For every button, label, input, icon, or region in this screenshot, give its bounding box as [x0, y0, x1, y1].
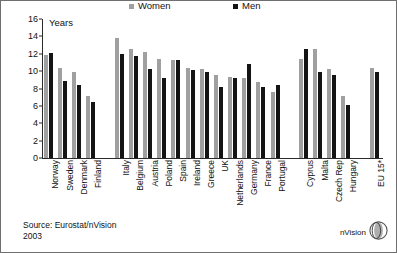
bar-women: [129, 49, 133, 158]
bar-women: [242, 78, 246, 158]
x-tick-label: Czech Rep: [335, 160, 344, 202]
bar-women: [157, 59, 161, 158]
bar-group: [44, 19, 56, 158]
plot-area: 0246810121416: [42, 19, 382, 158]
x-tick-label: Ireland: [193, 160, 202, 186]
x-tick-label: Cyprus: [306, 160, 315, 187]
x-tick-label: Norway: [51, 160, 60, 189]
legend-swatch: [129, 4, 134, 9]
bar-group: [200, 19, 212, 158]
bar-women: [299, 59, 303, 158]
x-tick-label: Spain: [179, 160, 188, 182]
bar-men: [375, 72, 379, 158]
bar-series-layer: [42, 19, 382, 158]
bar-men: [120, 54, 124, 158]
bar-group: [115, 19, 127, 158]
bar-women: [72, 72, 76, 158]
bar-women: [341, 96, 345, 158]
bar-women: [313, 49, 317, 158]
x-tick-label: France: [264, 160, 273, 186]
legend-label: Women: [138, 1, 171, 11]
bar-group: [58, 19, 70, 158]
bar-women: [115, 38, 119, 158]
bar-group: [256, 19, 268, 158]
x-axis-line: [42, 158, 383, 159]
bar-women: [143, 52, 147, 158]
source-year: 2003: [23, 231, 116, 242]
x-tick-label: Netherlands: [236, 160, 245, 206]
bar-men: [247, 64, 251, 158]
bar-group: [341, 19, 353, 158]
legend-swatch: [233, 4, 238, 9]
bar-men: [318, 72, 322, 158]
bar-women: [58, 68, 62, 158]
x-tick-label: Finland: [94, 160, 103, 188]
bar-group: [299, 19, 311, 158]
bar-group: [72, 19, 84, 158]
bar-women: [271, 92, 275, 158]
bar-men: [148, 69, 152, 158]
x-tick-label: Hungary: [349, 160, 358, 192]
bar-group: [129, 19, 141, 158]
source-line: Source: Eurostat/nVision: [23, 220, 116, 231]
sphere-logo-icon: [369, 221, 388, 244]
bar-men: [176, 60, 180, 158]
bar-women: [256, 82, 260, 158]
bar-group: [143, 19, 155, 158]
bar-men: [332, 75, 336, 158]
bar-men: [276, 85, 280, 158]
bar-men: [261, 87, 265, 158]
bar-group: [186, 19, 198, 158]
bar-group: [242, 19, 254, 158]
x-tick-label: Belgium: [136, 160, 145, 191]
bar-group: [313, 19, 325, 158]
legend-item: Men: [233, 1, 260, 11]
bar-group: [86, 19, 98, 158]
x-tick-label: Italy: [122, 160, 131, 176]
source-note: Source: Eurostat/nVision 2003: [23, 220, 116, 242]
bar-women: [86, 96, 90, 158]
bar-men: [219, 87, 223, 158]
x-tick-label: Germany: [250, 160, 259, 195]
bar-women: [171, 60, 175, 158]
bar-group: [271, 19, 283, 158]
bar-men: [304, 49, 308, 158]
x-tick-label: Austria: [151, 160, 160, 186]
x-tick-label: Denmark: [80, 160, 89, 194]
bar-group: [171, 19, 183, 158]
bar-women: [370, 68, 374, 158]
chart-figure: WomenMen Years 0246810121416 NorwaySwede…: [0, 0, 397, 253]
x-tick-label: Malta: [321, 160, 330, 181]
bar-men: [77, 85, 81, 158]
legend-item: Women: [129, 1, 171, 11]
bar-men: [191, 70, 195, 158]
bar-women: [44, 55, 48, 158]
bar-women: [200, 69, 204, 158]
bar-men: [205, 72, 209, 158]
x-axis-labels: NorwaySwedenDenmarkFinlandItalyBelgiumAu…: [42, 160, 382, 222]
bar-men: [162, 78, 166, 158]
bar-men: [91, 102, 95, 158]
bar-men: [134, 56, 138, 158]
x-tick-label: UK: [221, 160, 230, 172]
bar-group: [327, 19, 339, 158]
bar-women: [186, 68, 190, 158]
bar-men: [49, 53, 53, 158]
brand-name: nVision: [340, 228, 366, 237]
chart-legend: WomenMen: [1, 1, 396, 15]
x-tick-label: Sweden: [66, 160, 75, 191]
bar-group: [214, 19, 226, 158]
legend-label: Men: [242, 1, 260, 11]
bar-men: [346, 105, 350, 158]
bar-women: [327, 69, 331, 158]
bar-women: [228, 77, 232, 158]
bar-group: [228, 19, 240, 158]
bar-group: [157, 19, 169, 158]
x-tick-label: Greece: [207, 160, 216, 188]
x-tick-label: Portugal: [278, 160, 287, 192]
bar-women: [214, 75, 218, 158]
x-tick-label: Poland: [165, 160, 174, 186]
bar-men: [63, 81, 67, 158]
bar-group: [370, 19, 382, 158]
x-tick-label: EU 15*: [377, 160, 386, 187]
